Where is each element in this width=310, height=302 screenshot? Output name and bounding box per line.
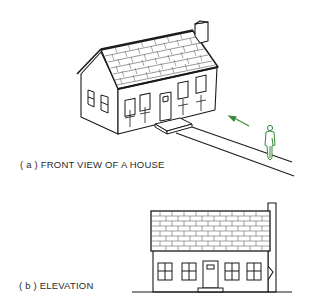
walkway: [176, 127, 294, 176]
figure-canvas: [0, 0, 310, 302]
person-icon: [265, 125, 275, 160]
caption-front-view: ( a ) FRONT VIEW OF A HOUSE: [20, 159, 165, 170]
arrow-icon: [229, 116, 249, 126]
front-door: [160, 92, 171, 121]
caption-elevation: ( b ) ELEVATION: [19, 280, 93, 291]
